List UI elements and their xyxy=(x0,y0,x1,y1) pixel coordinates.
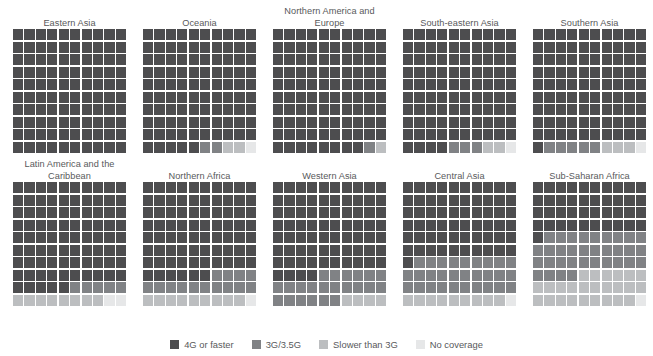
waffle-cell xyxy=(579,92,589,103)
waffle-cell xyxy=(426,282,436,293)
waffle-cell xyxy=(579,195,589,206)
chart-legend: 4G or faster3G/3.5GSlower than 3GNo cove… xyxy=(0,339,653,350)
waffle-cell xyxy=(579,295,589,306)
waffle-cell xyxy=(414,182,424,193)
waffle-cell xyxy=(506,67,516,78)
waffle-cell xyxy=(36,67,46,78)
waffle-cell xyxy=(376,42,386,53)
waffle-cell xyxy=(544,257,554,268)
waffle-cell xyxy=(307,282,317,293)
waffle-cell xyxy=(177,207,187,218)
waffle-cell xyxy=(284,67,294,78)
waffle-cell xyxy=(13,67,23,78)
waffle-cell xyxy=(590,29,600,40)
waffle-cell xyxy=(494,295,504,306)
waffle-cell xyxy=(449,142,459,153)
waffle-cell xyxy=(212,295,222,306)
waffle-cell xyxy=(636,129,646,140)
waffle-cell xyxy=(472,129,482,140)
waffle-cell xyxy=(47,79,57,90)
waffle-cell xyxy=(544,270,554,281)
waffle-cell xyxy=(166,104,176,115)
waffle-cell xyxy=(47,282,57,293)
waffle-cell xyxy=(533,282,543,293)
waffle-cell xyxy=(189,67,199,78)
waffle-cell xyxy=(82,295,92,306)
waffle-cell xyxy=(472,142,482,153)
legend-item[interactable]: No coverage xyxy=(416,339,483,350)
waffle-cell xyxy=(353,232,363,243)
waffle-cell xyxy=(506,295,516,306)
waffle-cell xyxy=(13,245,23,256)
legend-item[interactable]: 3G/3.5G xyxy=(252,339,301,350)
waffle-cell xyxy=(506,117,516,128)
legend-item[interactable]: Slower than 3G xyxy=(319,339,398,350)
waffle-cell xyxy=(104,104,114,115)
waffle-cell xyxy=(460,129,470,140)
waffle-cell xyxy=(104,270,114,281)
waffle-cell xyxy=(143,207,153,218)
waffle-cell xyxy=(636,54,646,65)
waffle-cell xyxy=(613,142,623,153)
waffle-cell xyxy=(472,220,482,231)
waffle-cell xyxy=(296,67,306,78)
waffle-cell xyxy=(613,245,623,256)
waffle-cell xyxy=(307,270,317,281)
waffle-cell xyxy=(602,182,612,193)
waffle-cell xyxy=(437,142,447,153)
waffle-cell xyxy=(296,207,306,218)
waffle-cell xyxy=(449,54,459,65)
waffle-cell xyxy=(104,207,114,218)
waffle-cell xyxy=(533,117,543,128)
waffle-cell xyxy=(246,42,256,53)
waffle-cell xyxy=(116,117,126,128)
waffle-cell xyxy=(426,104,436,115)
waffle-cell xyxy=(59,182,69,193)
waffle-cell xyxy=(200,54,210,65)
waffle-cell xyxy=(166,29,176,40)
waffle-cell xyxy=(36,282,46,293)
waffle-cell xyxy=(494,270,504,281)
waffle-cell xyxy=(223,42,233,53)
waffle-cell xyxy=(579,67,589,78)
waffle-cell xyxy=(533,29,543,40)
waffle-cell xyxy=(82,92,92,103)
waffle-cell xyxy=(472,104,482,115)
waffle-cell xyxy=(533,67,543,78)
waffle-cell xyxy=(70,54,80,65)
waffle-cell xyxy=(200,195,210,206)
waffle-cell xyxy=(36,220,46,231)
waffle-cell xyxy=(307,67,317,78)
waffle-cell xyxy=(590,195,600,206)
waffle-cell xyxy=(342,232,352,243)
waffle-cell xyxy=(166,232,176,243)
waffle-cell xyxy=(223,245,233,256)
waffle-cell xyxy=(82,67,92,78)
waffle-cell xyxy=(104,295,114,306)
waffle-cell xyxy=(104,129,114,140)
legend-swatch-icon xyxy=(319,340,328,349)
waffle-cell xyxy=(24,282,34,293)
waffle-cell xyxy=(246,182,256,193)
panel-title: Sub-Saharan Africa xyxy=(531,159,649,182)
waffle-cell xyxy=(246,257,256,268)
waffle-cell xyxy=(307,104,317,115)
waffle-cell xyxy=(602,142,612,153)
waffle-cell xyxy=(449,117,459,128)
waffle-cell xyxy=(602,282,612,293)
waffle-cell xyxy=(364,270,374,281)
waffle-cell xyxy=(403,270,413,281)
waffle-cell xyxy=(460,270,470,281)
waffle-cell xyxy=(590,67,600,78)
waffle-cell xyxy=(364,282,374,293)
waffle-cell xyxy=(24,195,34,206)
waffle-cell xyxy=(624,295,634,306)
waffle-cell xyxy=(143,92,153,103)
legend-item[interactable]: 4G or faster xyxy=(170,339,234,350)
waffle-cell xyxy=(59,232,69,243)
legend-swatch-icon xyxy=(416,340,425,349)
waffle-cell xyxy=(246,54,256,65)
waffle-cell xyxy=(284,295,294,306)
waffle-cell xyxy=(234,282,244,293)
waffle-cell xyxy=(59,207,69,218)
